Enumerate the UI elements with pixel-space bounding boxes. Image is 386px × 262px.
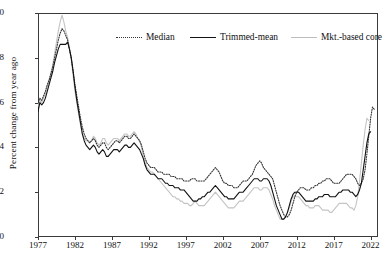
series-canvas: [38, 13, 378, 237]
x-tick-label: 2002: [203, 241, 243, 250]
x-tick-label: 1997: [166, 241, 206, 250]
x-tick-mark: [149, 237, 150, 240]
x-tick-mark: [260, 237, 261, 240]
y-tick-mark: [35, 13, 38, 14]
y-tick-mark: [35, 58, 38, 59]
series-line-trimmed-mean: [38, 42, 371, 219]
y-tick-mark: [35, 103, 38, 104]
x-tick-mark: [38, 237, 39, 240]
y-tick-mark: [35, 147, 38, 148]
series-line-mkt-based-core: [38, 15, 369, 219]
chart-figure: Percent change from year ago MedianTrimm…: [0, 0, 386, 262]
x-tick-label: 2012: [277, 241, 317, 250]
y-tick-label: 10: [0, 8, 4, 17]
x-tick-mark: [112, 237, 113, 240]
y-tick-label: 2: [0, 187, 4, 196]
y-tick-label: 6: [0, 98, 4, 107]
x-tick-mark: [223, 237, 224, 240]
x-tick-label: 2017: [314, 241, 354, 250]
x-tick-label: 2007: [240, 241, 280, 250]
x-tick-label: 1977: [18, 241, 58, 250]
x-tick-label: 1987: [92, 241, 132, 250]
plot-area: MedianTrimmed-meanMkt.-based core: [38, 13, 378, 237]
x-tick-mark: [371, 237, 372, 240]
y-tick-label: 4: [0, 142, 4, 151]
y-tick-label: 0: [0, 232, 4, 241]
x-tick-mark: [334, 237, 335, 240]
x-tick-mark: [186, 237, 187, 240]
x-tick-label: 2022: [351, 241, 386, 250]
x-tick-mark: [297, 237, 298, 240]
x-tick-label: 1982: [55, 241, 95, 250]
y-tick-label: 8: [0, 53, 4, 62]
x-tick-label: 1992: [129, 241, 169, 250]
y-tick-mark: [35, 192, 38, 193]
series-line-median: [38, 29, 374, 217]
y-axis-title: Percent change from year ago: [8, 18, 18, 208]
x-tick-mark: [75, 237, 76, 240]
